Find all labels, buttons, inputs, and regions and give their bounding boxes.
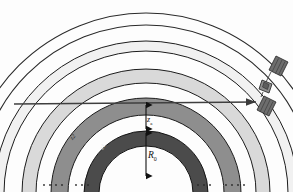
- satellite: [257, 56, 288, 116]
- satellite-body: [259, 80, 272, 93]
- satellite-panel-upper: [269, 56, 288, 76]
- label-R0: R0: [148, 150, 157, 162]
- figure-canvas: R0 za z1 z2: [0, 0, 293, 192]
- dots-row: [43, 184, 245, 186]
- label-za: za: [147, 115, 152, 126]
- diagram-svg: [0, 0, 293, 192]
